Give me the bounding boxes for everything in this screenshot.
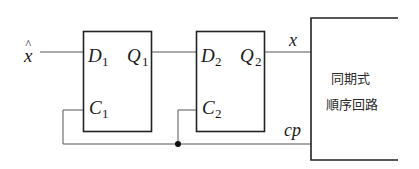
svg-text:1: 1 <box>102 54 109 69</box>
svg-text:2: 2 <box>255 54 262 69</box>
circuit-label-line1: 同期式 <box>331 71 370 86</box>
ff2-q-label: Q 2 <box>240 45 262 69</box>
svg-text:D: D <box>200 45 215 66</box>
clock-wire-ff2 <box>178 110 196 144</box>
ff1-q-label: Q 1 <box>127 45 149 69</box>
ff1-c-label: C 1 <box>89 97 109 121</box>
svg-text:C: C <box>202 97 215 118</box>
svg-text:1: 1 <box>142 54 149 69</box>
ff2-c-label: C 2 <box>202 97 222 121</box>
svg-text:^: ^ <box>26 37 32 51</box>
svg-text:Q: Q <box>240 45 254 66</box>
junction-dot <box>175 141 181 147</box>
svg-text:D: D <box>87 45 102 66</box>
x-signal-label: x <box>288 30 297 50</box>
svg-text:Q: Q <box>127 45 141 66</box>
ff2-d-label: D 2 <box>200 45 222 69</box>
ff1-d-label: D 1 <box>87 45 109 69</box>
sequential-circuit-block <box>311 18 398 160</box>
circuit-label-line2: 順序回路 <box>326 97 378 112</box>
svg-text:2: 2 <box>215 106 222 121</box>
svg-text:C: C <box>89 97 102 118</box>
input-label: x ^ <box>23 37 33 66</box>
flipflop-diagram: x ^ D 1 Q 1 C 1 D 2 Q 2 C 2 x cp 同期式 順序回… <box>0 0 419 169</box>
svg-text:1: 1 <box>102 106 109 121</box>
cp-signal-label: cp <box>284 120 301 140</box>
svg-text:2: 2 <box>215 54 222 69</box>
